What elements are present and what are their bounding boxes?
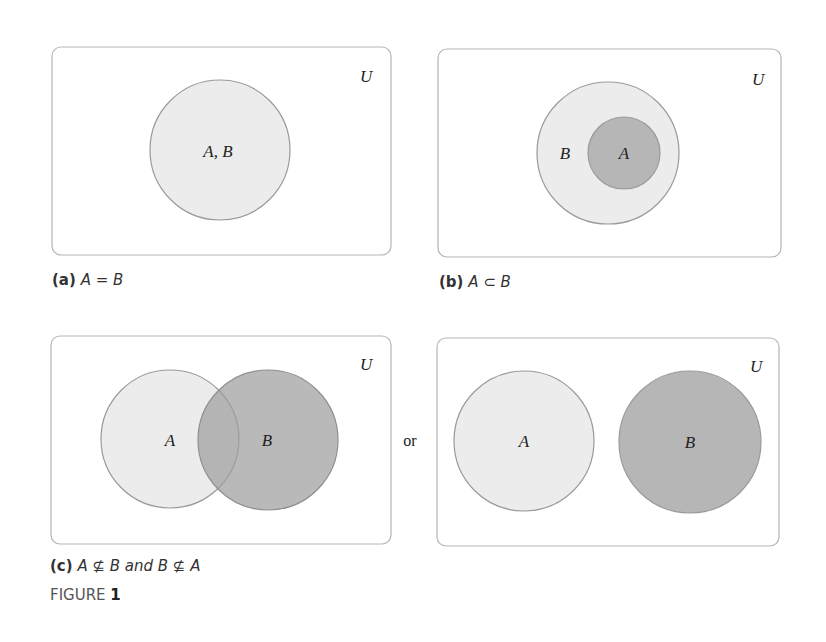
caption-a: (a) A = B [52,271,123,289]
set-label-a-inner: A [618,144,630,163]
set-label-a-disjoint: A [518,432,530,451]
venn-diagrams: U A, B U B A U A B or U A B [0,0,826,642]
panel-b: U B A [438,49,781,257]
caption-c-expr: A ⊈ B and B ⊈ A [77,557,200,575]
set-label-b-outer: B [560,144,571,163]
set-label-a-b: A, B [202,142,233,161]
caption-a-expr: A = B [81,271,124,289]
universe-label-b: U [752,70,766,89]
caption-c-tag: (c) [50,557,73,575]
caption-c: (c) A ⊈ B and B ⊈ A [50,557,200,575]
or-connector: or [403,432,417,449]
universe-label-d: U [750,357,764,376]
figure-number: 1 [110,586,120,604]
set-label-a-left: A [164,431,176,450]
caption-b-expr: A ⊂ B [468,273,511,291]
panel-a: U A, B [52,47,391,255]
figure-label: FIGURE 1 [50,586,121,604]
set-label-b-disjoint: B [685,433,696,452]
figure-prefix: FIGURE [50,586,106,604]
caption-b-tag: (b) [439,273,463,291]
caption-a-tag: (a) [52,271,76,289]
panel-c: U A B [51,336,391,544]
universe-label-c: U [360,355,374,374]
panel-c-alt: U A B [437,338,779,546]
caption-b: (b) A ⊂ B [439,273,511,291]
set-label-b-right: B [262,431,273,450]
universe-label-a: U [360,67,374,86]
